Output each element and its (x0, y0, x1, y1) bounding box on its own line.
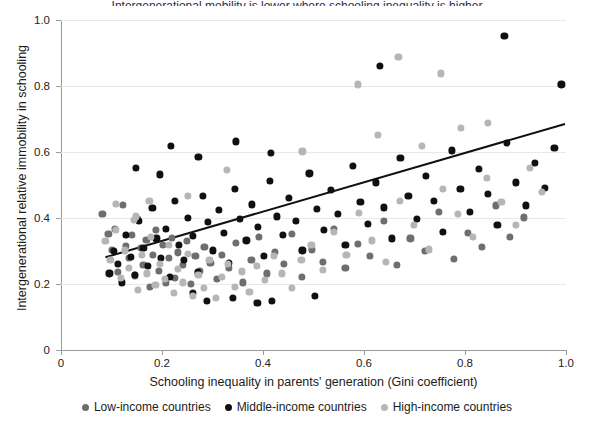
x-axis-ticklabel: 1.0 (558, 357, 574, 369)
chart-legend: Low-income countriesMiddle-income countr… (0, 400, 594, 414)
x-axis-tick (263, 350, 264, 355)
x-axis-ticklabel: 0.8 (457, 357, 473, 369)
cropped-chart-title: Intergenerational mobility is lower wher… (0, 0, 594, 6)
x-axis-tick (566, 350, 567, 355)
x-axis-tick (162, 350, 163, 355)
legend-swatch-high-income (381, 404, 388, 411)
x-axis-label: Schooling inequality in parents' generat… (61, 375, 566, 389)
y-axis-ticklabel: 1.0 (34, 14, 50, 26)
y-axis-ticklabel: 0.6 (34, 146, 50, 158)
legend-swatch-low-income (82, 404, 89, 411)
x-axis-tick (465, 350, 466, 355)
x-axis-tick (61, 350, 62, 355)
chart-figure: Intergenerational mobility is lower wher… (0, 0, 594, 429)
y-axis-ticklabel: 0.4 (34, 212, 50, 224)
x-axis-ticklabel: 0.4 (255, 357, 271, 369)
legend-item-high-income-countries[interactable]: High-income countries (381, 400, 512, 414)
legend-item-label: High-income countries (393, 400, 512, 414)
x-axis-tick (364, 350, 365, 355)
x-axis-ticklabel: 0 (58, 357, 64, 369)
legend-item-low-income-countries[interactable]: Low-income countries (82, 400, 211, 414)
x-axis-line (61, 350, 566, 351)
y-axis-label: Intergenerational relative immobility in… (15, 13, 29, 343)
y-axis-ticklabel: 0.8 (34, 80, 50, 92)
scatter-plot-area (61, 20, 566, 350)
y-axis-ticklabel: 0.2 (34, 278, 50, 290)
x-axis-ticklabel: 0.6 (356, 357, 372, 369)
regression-trendline (61, 20, 566, 350)
legend-item-middle-income-countries[interactable]: Middle-income countries (225, 400, 367, 414)
legend-item-label: Middle-income countries (237, 400, 367, 414)
legend-swatch-middle-income (225, 404, 232, 411)
x-axis-ticklabel: 0.2 (154, 357, 170, 369)
legend-item-label: Low-income countries (94, 400, 211, 414)
y-axis-ticklabel: 0 (44, 344, 50, 356)
